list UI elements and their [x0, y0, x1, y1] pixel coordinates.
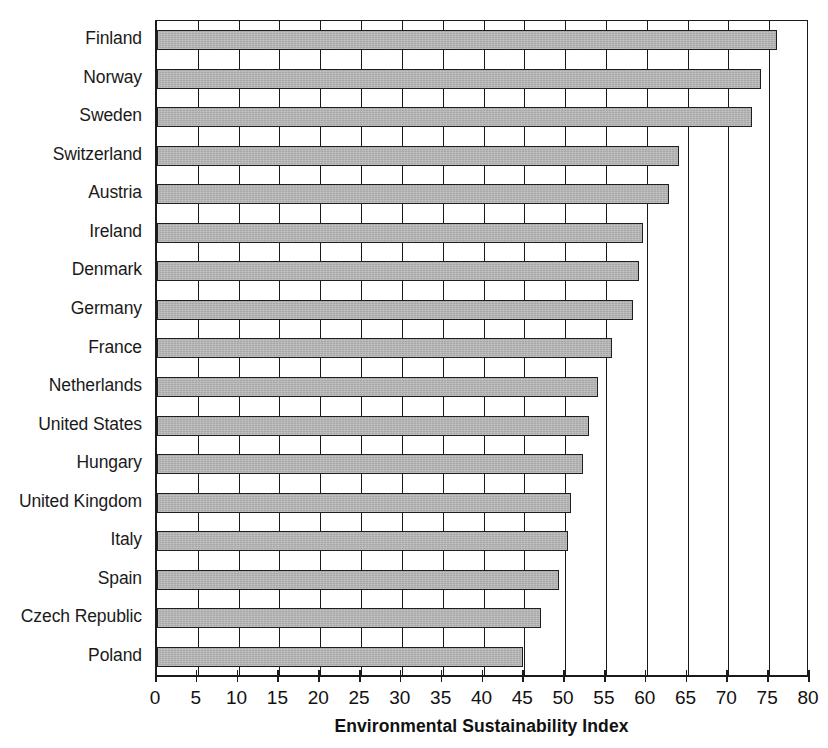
bar-row: [157, 21, 810, 60]
x-tick-label: 45: [512, 687, 533, 709]
x-tick: [686, 670, 688, 682]
bar-row: [157, 522, 810, 561]
category-label: Italy: [0, 531, 142, 549]
x-tick: [482, 670, 484, 682]
bar-row: [157, 214, 810, 253]
x-tick: [563, 670, 565, 682]
bar: [157, 69, 761, 89]
x-tick: [237, 670, 239, 682]
x-tick-label: 60: [634, 687, 655, 709]
bar: [157, 608, 541, 628]
category-label: Denmark: [0, 261, 142, 279]
x-tick-label: 10: [226, 687, 247, 709]
bar: [157, 570, 559, 590]
x-tick: [522, 670, 524, 682]
bar: [157, 107, 752, 127]
category-label: Sweden: [0, 107, 142, 125]
bar: [157, 30, 777, 50]
x-tick-label: 80: [797, 687, 818, 709]
x-tick-label: 5: [191, 687, 202, 709]
bar-row: [157, 252, 810, 291]
bar: [157, 377, 598, 397]
x-tick: [196, 670, 198, 682]
x-tick-label: 75: [757, 687, 778, 709]
x-tick-label: 20: [308, 687, 329, 709]
bar-row: [157, 637, 810, 676]
bar: [157, 184, 669, 204]
category-label: Germany: [0, 300, 142, 318]
category-label: Ireland: [0, 223, 142, 241]
x-tick: [359, 670, 361, 682]
x-tick-label: 35: [430, 687, 451, 709]
x-tick-label: 40: [471, 687, 492, 709]
category-label: Finland: [0, 30, 142, 48]
x-tick-label: 0: [150, 687, 161, 709]
bar: [157, 338, 612, 358]
bar: [157, 146, 679, 166]
x-tick: [767, 670, 769, 682]
bar-row: [157, 368, 810, 407]
x-tick: [400, 670, 402, 682]
category-label: Switzerland: [0, 146, 142, 164]
bar-row: [157, 406, 810, 445]
x-tick: [441, 670, 443, 682]
x-axis-title: Environmental Sustainability Index: [155, 716, 808, 737]
category-label: United Kingdom: [0, 493, 142, 511]
category-label: Hungary: [0, 454, 142, 472]
bar: [157, 261, 639, 281]
bar-row: [157, 137, 810, 176]
bar-row: [157, 599, 810, 638]
x-tick: [318, 670, 320, 682]
x-tick-label: 55: [593, 687, 614, 709]
category-label: Czech Republic: [0, 608, 142, 626]
bar: [157, 223, 643, 243]
bar: [157, 647, 523, 667]
x-tick: [155, 670, 157, 682]
bar-row: [157, 175, 810, 214]
plot-area: [155, 20, 808, 675]
bar: [157, 300, 633, 320]
x-tick: [604, 670, 606, 682]
bar-row: [157, 445, 810, 484]
x-tick-label: 25: [348, 687, 369, 709]
x-tick: [808, 670, 810, 682]
x-tick: [277, 670, 279, 682]
x-tick-label: 50: [553, 687, 574, 709]
x-tick-label: 65: [675, 687, 696, 709]
x-tick-label: 70: [716, 687, 737, 709]
x-tick-label: 30: [389, 687, 410, 709]
bar-row: [157, 329, 810, 368]
x-tick: [645, 670, 647, 682]
bar-row: [157, 291, 810, 330]
x-axis: 05101520253035404550556065707580: [155, 675, 808, 677]
category-label: Netherlands: [0, 377, 142, 395]
bar-row: [157, 483, 810, 522]
bar: [157, 454, 583, 474]
category-label: Spain: [0, 570, 142, 588]
category-axis-labels: FinlandNorwaySwedenSwitzerlandAustriaIre…: [0, 20, 150, 675]
bar: [157, 493, 571, 513]
x-tick-label: 15: [267, 687, 288, 709]
category-label: France: [0, 339, 142, 357]
bar-row: [157, 60, 810, 99]
bar: [157, 416, 589, 436]
bar-chart: FinlandNorwaySwedenSwitzerlandAustriaIre…: [0, 0, 828, 748]
bar-row: [157, 98, 810, 137]
bar: [157, 531, 568, 551]
x-tick: [726, 670, 728, 682]
category-label: United States: [0, 416, 142, 434]
category-label: Norway: [0, 69, 142, 87]
bar-row: [157, 560, 810, 599]
category-label: Poland: [0, 647, 142, 665]
category-label: Austria: [0, 184, 142, 202]
